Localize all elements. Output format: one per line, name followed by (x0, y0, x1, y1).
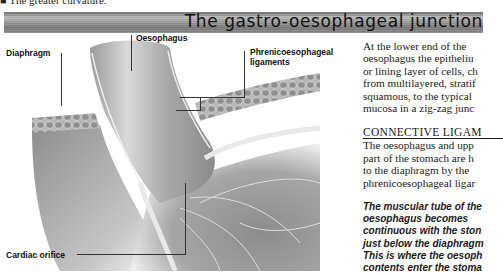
label-phrenicoesophageal-ligaments: Phrenicoesophageal ligaments (250, 47, 333, 67)
leader-phrenico-horizontal (180, 97, 245, 98)
body-line: phrenicoesophageal ligar (363, 177, 503, 189)
section-title: The gastro-oesophageal junction (185, 12, 483, 31)
body-line: The oesophagus and upp (363, 139, 503, 151)
intro-line: squamous, to the typical (363, 90, 503, 102)
intro-line: At the lower end of the (363, 40, 503, 52)
figure-caption: The muscular tube of the oesophagus beco… (363, 201, 503, 274)
body-text-column: At the lower end of the oesophagus the e… (363, 40, 503, 274)
section-banner: The gastro-oesophageal junction (4, 12, 483, 33)
leader-oesophagus (131, 35, 132, 71)
leader-cardiac-horizontal (77, 254, 186, 255)
body-line: part of the stomach are h (363, 152, 503, 164)
intro-line: from multilayered, stratif (363, 77, 503, 89)
leader-phrenico-branch (200, 97, 201, 110)
leader-phrenico-vertical (244, 51, 245, 97)
body-line: to the diaphragm by the (363, 164, 503, 176)
intro-line: or lining layer of cells, ch (363, 65, 503, 77)
section-heading: CONNECTIVE LIGAM (363, 126, 503, 139)
leader-diaphragm (61, 53, 62, 106)
label-oesophagus: Oesophagus (136, 33, 187, 43)
label-diaphragm: Diaphragm (6, 48, 50, 58)
leader-cardiac-vertical (185, 183, 186, 255)
gastro-oesophageal-junction-illustration (0, 33, 320, 275)
label-cardiac-orifice: Cardiac orifice (6, 250, 65, 260)
previous-page-text: ■ The greater curvature. (0, 0, 107, 6)
intro-line: oesophagus the epitheliu (363, 52, 503, 64)
anatomy-illustration: Oesophagus Diaphragm Phrenicoesophageal … (0, 33, 320, 275)
leader-phrenico-branch-h (176, 110, 201, 111)
intro-line: mucosa in a zig-zag junc (363, 102, 503, 114)
